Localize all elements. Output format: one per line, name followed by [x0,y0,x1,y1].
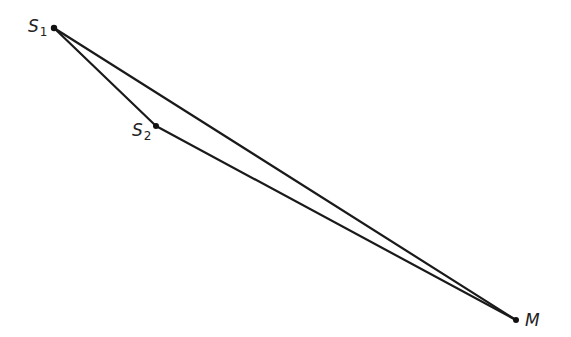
segment-s1-m [54,28,516,320]
segment-s2-m [156,126,516,320]
triangle-diagram [0,0,571,337]
point-s2-dot [153,123,159,129]
point-s2-label: S2 [132,122,151,139]
point-s1-dot [51,25,57,31]
point-s1-label-sub: 1 [40,25,48,39]
point-s2-label-main: S [132,120,143,140]
point-s2-label-sub: 2 [144,129,152,143]
point-s1-label-main: S [28,16,39,36]
point-m-dot [513,317,519,323]
segment-s1-s2 [54,28,156,126]
point-s1-label: S1 [28,18,47,35]
point-m-label: M [525,312,540,329]
point-m-label-main: M [525,310,540,330]
